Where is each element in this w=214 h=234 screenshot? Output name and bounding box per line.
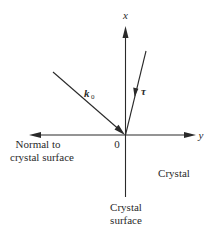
x-axis: x <box>122 9 128 197</box>
origin-label: 0 <box>114 138 120 150</box>
tau-label: τ <box>141 85 147 97</box>
y-axis-label: y <box>198 129 204 141</box>
incident-vector-k0: k0 <box>53 72 125 135</box>
crystal-surface-label: Crystal surface <box>110 201 142 226</box>
crystal-surface-label-line2: surface <box>110 214 142 226</box>
x-axis-label: x <box>122 9 128 21</box>
y-axis-arrowhead-icon <box>184 132 196 138</box>
normal-label-line1: Normal to <box>16 138 61 150</box>
crystal-diffraction-diagram: x y 0 k0 τ Normal to crystal surface Cry… <box>0 0 214 234</box>
crystal-surface-label-line1: Crystal <box>110 201 142 213</box>
k0-label: k0 <box>84 87 95 101</box>
tau-arrowhead-icon <box>133 88 138 98</box>
crystal-label: Crystal <box>158 167 190 179</box>
normal-label-line2: crystal surface <box>10 151 74 163</box>
normal-label: Normal to crystal surface <box>10 138 74 163</box>
k0-subscript: 0 <box>91 93 95 101</box>
k0-vector-line <box>53 72 122 132</box>
x-axis-arrowhead-icon <box>123 26 129 38</box>
tau-vector: τ <box>126 51 148 135</box>
k0-symbol: k <box>84 87 90 99</box>
